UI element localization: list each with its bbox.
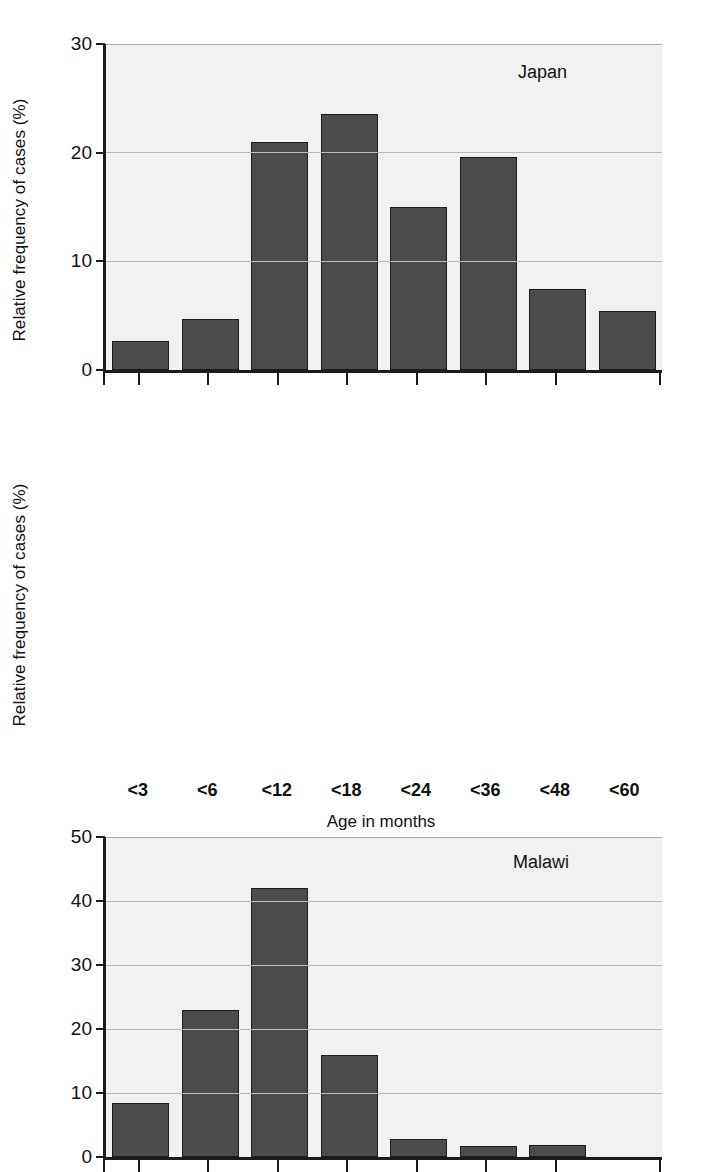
y-tick-label: 0: [81, 1146, 92, 1168]
bar-slot: [106, 44, 176, 370]
y-tick-label: 20: [71, 1018, 92, 1040]
bar: [251, 142, 308, 370]
y-tick-label: 30: [71, 33, 92, 55]
bar-slot: [454, 837, 524, 1157]
x-tick-slot: [520, 1160, 590, 1172]
bar-slot: [384, 837, 454, 1157]
x-tick-mark: [277, 1160, 279, 1172]
x-tick-label: <6: [173, 780, 243, 801]
bar: [599, 311, 656, 370]
x-tick-slot: [590, 373, 660, 385]
series-label-malawi: Malawi: [513, 852, 569, 873]
y-tick-mark: [96, 1092, 105, 1094]
x-tick-label: <36: [451, 780, 521, 801]
x-tick-label: <48: [520, 780, 590, 801]
y-tick-label: 20: [71, 142, 92, 164]
gridline: [106, 1029, 662, 1030]
y-tick-mark: [96, 1156, 105, 1158]
bar-slot: [106, 837, 176, 1157]
x-tick-slot: [173, 373, 243, 385]
x-tick-slot: [520, 373, 590, 385]
y-tick-mark: [96, 1028, 105, 1030]
bar: [460, 1146, 517, 1157]
x-tick-mark: [485, 373, 487, 385]
y-tick-mark: [96, 369, 105, 371]
x-tick-mark: [277, 373, 279, 385]
gridline: [106, 44, 662, 45]
bar-slot: [245, 44, 315, 370]
bar-group-japan: [106, 44, 662, 370]
bar-group-malawi: [106, 837, 662, 1157]
bar: [182, 1010, 239, 1157]
gridline: [106, 901, 662, 902]
bar: [390, 1139, 447, 1157]
bar-slot: [523, 837, 593, 1157]
bar: [529, 289, 586, 371]
x-axis-title: Age in months: [103, 812, 659, 832]
x-tick-mark: [138, 1160, 140, 1172]
x-tick-mark: [416, 1160, 418, 1172]
y-tick-mark: [96, 964, 105, 966]
x-tick-mark: [659, 1160, 661, 1172]
bar: [182, 319, 239, 370]
plot-area-malawi: 01020304050: [103, 837, 662, 1160]
bar-slot: [593, 837, 663, 1157]
x-tick-label: <60: [590, 780, 660, 801]
bar-slot: [315, 44, 385, 370]
x-tick-mark: [207, 373, 209, 385]
bar: [251, 888, 308, 1157]
gridline: [106, 261, 662, 262]
x-tick-label: <18: [312, 780, 382, 801]
x-tick-slot: [173, 1160, 243, 1172]
y-tick-mark: [96, 836, 105, 838]
bar: [390, 207, 447, 370]
bar-slot: [176, 44, 246, 370]
gridline: [106, 152, 662, 153]
chart-panel-malawi: Relative frequency of cases (%) 01020304…: [0, 400, 709, 840]
gridline: [106, 1093, 662, 1094]
y-tick-mark: [96, 152, 105, 154]
x-ticks-malawi: [103, 1160, 659, 1172]
x-tick-slot: [312, 373, 382, 385]
gridline: [106, 837, 662, 838]
bar-slot: [315, 837, 385, 1157]
x-tick-slot: [381, 373, 451, 385]
x-tick-slot: [451, 1160, 521, 1172]
x-tick-slot: [312, 1160, 382, 1172]
bar-slot: [454, 44, 524, 370]
x-tick-slot: [590, 1160, 660, 1172]
x-tick-mark: [138, 373, 140, 385]
x-tick-label: <24: [381, 780, 451, 801]
x-tick-label: <12: [242, 780, 312, 801]
y-tick-mark: [96, 260, 105, 262]
y-tick-mark: [96, 900, 105, 902]
y-tick-label: 30: [71, 954, 92, 976]
y-tick-mark: [96, 43, 105, 45]
y-axis-title-malawi: Relative frequency of cases (%): [10, 455, 30, 755]
bar: [460, 157, 517, 370]
x-tick-mark: [103, 1160, 105, 1172]
x-tick-mark: [207, 1160, 209, 1172]
bar-slot: [245, 837, 315, 1157]
y-tick-label: 40: [71, 890, 92, 912]
bar-slot: [593, 44, 663, 370]
bar: [112, 1103, 169, 1157]
x-tick-mark: [103, 373, 105, 385]
x-tick-mark: [555, 1160, 557, 1172]
x-tick-mark: [659, 373, 661, 385]
gridline: [106, 965, 662, 966]
x-tick-mark: [416, 373, 418, 385]
x-tick-slot: [103, 373, 173, 385]
x-tick-slot: [242, 1160, 312, 1172]
x-ticks-japan: [103, 373, 659, 385]
series-label-japan: Japan: [518, 62, 567, 83]
y-tick-label: 10: [71, 250, 92, 272]
bar-slot: [384, 44, 454, 370]
x-tick-mark: [485, 1160, 487, 1172]
x-tick-slot: [381, 1160, 451, 1172]
y-tick-label: 0: [81, 359, 92, 381]
bar-slot: [523, 44, 593, 370]
y-tick-label: 50: [71, 826, 92, 848]
bar: [112, 341, 169, 370]
